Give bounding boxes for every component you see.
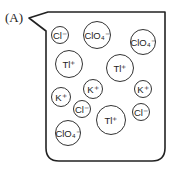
ion-circle: Cl⁻: [132, 103, 150, 121]
ion-circle: K⁺: [51, 87, 71, 107]
ion-circle: ClO₄⁻: [130, 29, 156, 55]
ion-circle: ClO₄⁻: [83, 21, 111, 49]
ion-circle: Tl⁺: [96, 105, 126, 135]
ion-circle: Cl⁻: [51, 26, 69, 44]
ion-circle: ClO₄⁻: [55, 120, 81, 146]
ion-circle: Cl⁻: [73, 100, 91, 118]
ion-circle: Tl⁺: [106, 54, 134, 82]
ion-circle: K⁺: [83, 79, 103, 99]
ion-circle: K⁺: [134, 80, 152, 98]
ion-circle: Tl⁺: [55, 50, 83, 78]
